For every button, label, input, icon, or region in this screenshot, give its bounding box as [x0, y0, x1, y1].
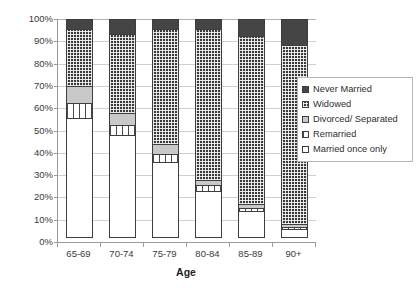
legend-item[interactable]: Remarried	[302, 127, 409, 142]
bar-group	[58, 19, 316, 242]
legend-swatch-icon	[302, 86, 309, 93]
bar-segment[interactable]	[152, 29, 179, 145]
y-axis-tick-label: 60%	[34, 103, 53, 113]
bar-segment[interactable]	[238, 211, 265, 238]
bar-segment[interactable]	[109, 135, 136, 238]
x-axis-tick-labels: 65-6970-7475-7980-8485-8990+	[57, 242, 315, 258]
legend-swatch-icon	[302, 146, 309, 153]
y-axis-tick-label: 70%	[34, 81, 53, 91]
bar-segment[interactable]	[281, 229, 308, 238]
legend-swatch-icon	[302, 131, 309, 138]
x-axis-tick-label: 65-69	[57, 242, 100, 258]
y-axis-tick-label: 40%	[34, 148, 53, 158]
legend-swatch-icon	[302, 116, 309, 123]
x-axis-tick-label: 85-89	[229, 242, 272, 258]
legend-item-label: Never Married	[313, 85, 372, 94]
x-axis-tick-mark	[57, 242, 58, 247]
x-axis-tick-mark	[186, 242, 187, 247]
legend-item[interactable]: Widowed	[302, 97, 409, 112]
legend-item-label: Widowed	[313, 100, 351, 109]
legend-swatch-icon	[302, 101, 309, 108]
bar-segment[interactable]	[66, 118, 93, 238]
stacked-bar[interactable]	[66, 19, 93, 242]
x-axis-tick-label: 75-79	[143, 242, 186, 258]
bar-segment[interactable]	[238, 36, 265, 205]
legend-item[interactable]: Divorced/ Separated	[302, 112, 409, 127]
bar-slot-65-69	[58, 19, 101, 242]
y-axis-tick-label: 0%	[39, 237, 53, 247]
stacked-bar[interactable]	[238, 19, 265, 242]
x-axis-tick-mark	[229, 242, 230, 247]
y-axis-tick-label: 50%	[34, 126, 53, 136]
bar-segment[interactable]	[195, 191, 222, 238]
bar-segment[interactable]	[109, 34, 136, 114]
x-axis-tick-label: 90+	[272, 242, 315, 258]
stacked-bar[interactable]	[195, 19, 222, 242]
bar-segment[interactable]	[281, 19, 308, 46]
plot-area: 0%10%20%30%40%50%60%70%80%90%100%	[57, 19, 316, 243]
y-axis-tick-label: 100%	[29, 14, 53, 24]
legend-item-label: Divorced/ Separated	[313, 115, 398, 124]
legend-item[interactable]: Married once only	[302, 142, 409, 157]
bar-segment[interactable]	[66, 103, 93, 119]
y-axis-tick-label: 90%	[34, 37, 53, 47]
bar-segment[interactable]	[195, 29, 222, 181]
stacked-bar[interactable]	[152, 19, 179, 242]
y-axis-tick-label: 20%	[34, 193, 53, 203]
x-axis-tick-mark	[272, 242, 273, 247]
bar-segment[interactable]	[109, 19, 136, 35]
bar-slot-80-84	[187, 19, 230, 242]
stacked-bar[interactable]	[109, 19, 136, 242]
x-axis-tick-mark	[100, 242, 101, 247]
legend-item[interactable]: Never Married	[302, 82, 409, 97]
bar-slot-75-79	[144, 19, 187, 242]
legend-item-label: Remarried	[313, 130, 356, 139]
bar-segment[interactable]	[109, 113, 136, 126]
bar-slot-85-89	[230, 19, 273, 242]
legend-item-label: Married once only	[313, 145, 387, 154]
legend: Never MarriedWidowedDivorced/ SeparatedR…	[297, 77, 413, 162]
x-axis-title: Age	[57, 266, 315, 278]
y-axis-tick-label: 30%	[34, 170, 53, 180]
bar-segment[interactable]	[152, 162, 179, 238]
bar-segment[interactable]	[66, 86, 93, 104]
bar-segment[interactable]	[66, 29, 93, 87]
bar-slot-70-74	[101, 19, 144, 242]
x-axis-tick-mark	[315, 242, 316, 247]
x-axis-tick-mark	[143, 242, 144, 247]
x-axis-tick-label: 80-84	[186, 242, 229, 258]
chart-container: 0%10%20%30%40%50%60%70%80%90%100% 65-697…	[0, 0, 418, 292]
x-axis-tick-label: 70-74	[100, 242, 143, 258]
y-axis-tick-label: 10%	[34, 215, 53, 225]
bar-segment[interactable]	[238, 19, 265, 37]
y-axis-tick-label: 80%	[34, 59, 53, 69]
